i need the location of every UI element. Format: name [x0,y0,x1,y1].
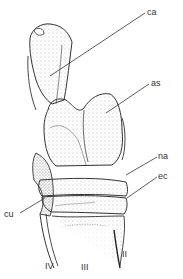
label-cu: cu [4,210,14,219]
leader-line-na [126,157,157,175]
calcaneus-bone [28,24,72,110]
navicular-bone [39,178,128,196]
astragalus-bone [44,94,125,166]
ectocuneiform-bone [42,196,127,214]
label-metatarsal-ii: II [122,250,127,259]
leader-line-ec [127,177,157,198]
label-metatarsal-iv: IV [45,262,54,271]
anatomical-figure: ca as na ec cu IV III II [0,0,183,279]
bone-line-drawing [0,0,183,279]
label-ec: ec [158,172,168,181]
label-na: na [158,152,168,161]
label-ca: ca [147,8,157,17]
label-metatarsal-iii: III [81,263,89,272]
label-as: as [151,79,161,88]
